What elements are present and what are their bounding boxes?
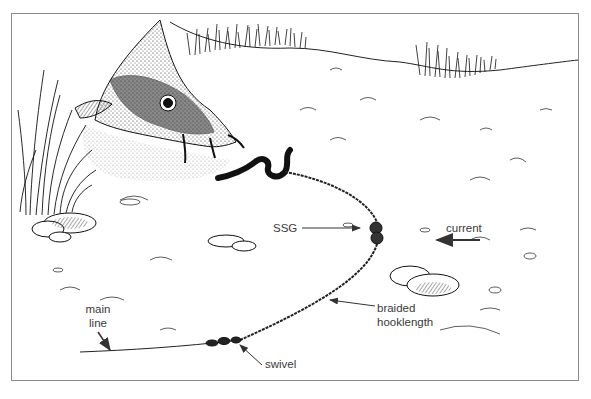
label-braided: braided <box>377 302 415 315</box>
braided-arrow <box>330 300 375 306</box>
swivel-shape <box>206 337 241 346</box>
label-ssg: SSG <box>273 222 297 235</box>
bank-ridge <box>170 22 578 71</box>
label-current: current <box>446 222 482 235</box>
rocks-left <box>32 213 96 242</box>
label-main-line-2: line <box>78 317 118 330</box>
label-swivel: swivel <box>265 358 296 371</box>
swivel-arrow <box>240 345 262 365</box>
ssg-shot <box>370 222 383 244</box>
label-main-line-1: main <box>78 303 118 316</box>
rocks-right <box>208 235 459 296</box>
main-line-arrow <box>98 332 110 350</box>
worm-bait <box>218 150 290 178</box>
illustration-stage: SSG current main line braided hooklength… <box>0 0 591 399</box>
label-hooklength: hooklength <box>377 316 433 329</box>
annotation-arrows <box>98 228 480 365</box>
riverbed-illustration <box>0 0 591 399</box>
